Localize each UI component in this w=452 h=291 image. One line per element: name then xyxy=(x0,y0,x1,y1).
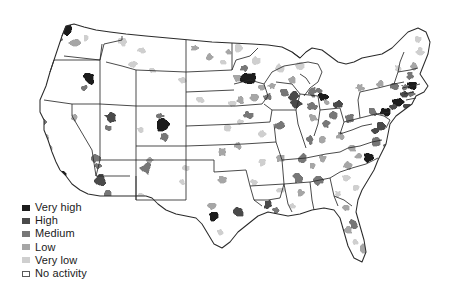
legend-swatch-icon xyxy=(22,257,30,263)
county-patch xyxy=(218,148,226,156)
county-patch xyxy=(353,185,359,191)
legend-item[interactable]: Medium xyxy=(22,227,126,240)
choropleth-figure: Seattle WA — Very highPuget Sound WA — M… xyxy=(0,0,452,291)
county-patch xyxy=(276,188,285,192)
county-region[interactable]: Oklahoma City OK — Low xyxy=(218,148,226,156)
legend-item[interactable]: Very high xyxy=(22,201,126,214)
legend-item[interactable]: Low xyxy=(22,241,126,254)
legend-item-label: Very high xyxy=(35,201,82,214)
county-region[interactable]: Memphis TN — Low xyxy=(276,155,284,162)
county-region[interactable]: Charleston SC — Very low xyxy=(353,185,359,191)
county-region[interactable]: Jackson MS — Very low xyxy=(276,188,285,192)
legend-swatch-icon xyxy=(22,231,30,237)
legend-item-label: Medium xyxy=(35,227,75,240)
legend-item[interactable]: Very low xyxy=(22,254,126,267)
legend-item[interactable]: High xyxy=(22,214,126,227)
legend-item-label: Low xyxy=(35,241,55,254)
legend-item-label: No activity xyxy=(35,267,87,280)
legend-item-label: Very low xyxy=(35,254,77,267)
legend-swatch-icon xyxy=(22,244,30,250)
legend-item[interactable]: No activity xyxy=(22,267,126,280)
legend-swatch-icon xyxy=(22,218,30,224)
legend-swatch-icon xyxy=(22,271,30,277)
activity-level-legend: Very highHighMediumLowVery lowNo activit… xyxy=(22,201,126,280)
county-patch xyxy=(276,155,284,162)
legend-item-label: High xyxy=(35,214,58,227)
legend-swatch-icon xyxy=(22,205,30,211)
